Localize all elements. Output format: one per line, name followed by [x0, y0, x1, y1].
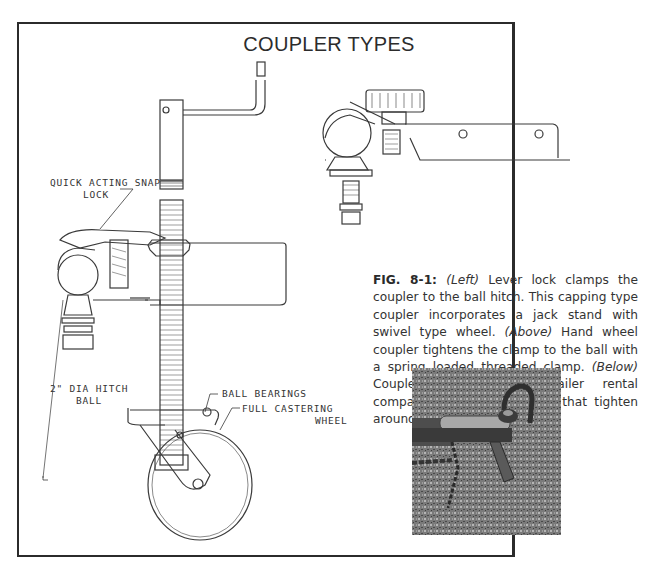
caption-tag-left: (Left): [446, 273, 479, 287]
caption-tag-below: (Below): [592, 360, 638, 374]
photo-content-icon: [412, 368, 561, 535]
caption-tag-above: (Above): [504, 325, 552, 339]
figure-number: FIG. 8-1:: [373, 273, 437, 287]
hand-wheel-coupler-icon: [323, 90, 570, 224]
label-ball-bearings: BALL BEARINGS: [222, 388, 307, 400]
label-hitch-ball: 2" DIA HITCH BALL: [50, 383, 128, 407]
label-quick-acting-snap-lock: QUICK ACTING SNAP LOCK: [50, 177, 161, 201]
rental-coupler-photo: [412, 368, 561, 535]
castering-wheel-icon: [128, 408, 252, 540]
lever-lock-coupler-icon: [58, 230, 286, 349]
label-full-castering-wheel: FULL CASTERING WHEEL: [242, 403, 348, 427]
